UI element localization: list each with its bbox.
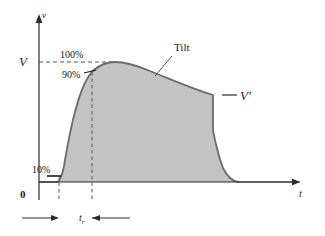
percent-90-label: 90%: [62, 70, 80, 80]
percent-10-label: 10%: [32, 165, 50, 175]
origin-label: 0: [20, 189, 26, 200]
amplitude-label: V: [19, 55, 27, 68]
tilt-label: Tilt: [174, 42, 190, 53]
rise-time-right-arrowhead: [92, 215, 100, 221]
rise-time-left-arrowhead: [51, 215, 59, 221]
tilt-leader-line: [155, 56, 172, 76]
pulse-waveform-plot: [0, 0, 325, 236]
t-axis-label: t: [299, 189, 302, 199]
pulse-area-fill: [57, 62, 238, 182]
rise-time-subscript: r: [82, 218, 85, 226]
percent-100-label: 100%: [60, 50, 83, 60]
pulse-waveform-figure: v t 0 V V' 100% 90% 10% Tilt tr: [0, 0, 325, 236]
v-axis-label: v: [42, 11, 46, 20]
rise-time-label: tr: [79, 213, 85, 226]
amplitude-prime-label: V': [240, 89, 251, 102]
t-axis-arrowhead: [292, 179, 300, 186]
